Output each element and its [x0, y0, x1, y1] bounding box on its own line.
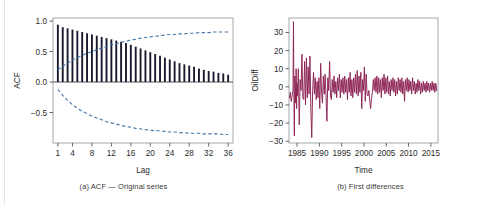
x-tick-label: 2015: [422, 149, 441, 158]
x-axis-title: Time: [355, 166, 373, 175]
panel-b-caption: (b) First differences: [247, 182, 494, 191]
y-tick-label: 0.5: [36, 48, 48, 57]
plot-frame: [53, 18, 233, 143]
x-tick-label: 8: [90, 149, 95, 158]
x-tick-label: 1995: [333, 149, 352, 158]
x-tick-label: 20: [146, 149, 156, 158]
x-tick-label: 2005: [377, 149, 396, 158]
x-tick-label: 4: [70, 149, 75, 158]
y-tick-label: −0.5: [31, 109, 48, 118]
y-tick-label: −30: [269, 137, 283, 146]
x-tick-label: 1985: [288, 149, 307, 158]
y-tick-label: 20: [274, 47, 284, 56]
x-tick-label: 28: [185, 149, 195, 158]
x-tick-label: 16: [126, 149, 136, 158]
y-axis-title: ACF: [13, 72, 22, 88]
x-tick-label: 2000: [355, 149, 374, 158]
y-axis-title: OilDiff: [251, 69, 260, 92]
y-tick-label: 0.0: [36, 78, 48, 87]
y-tick-label: −10: [269, 101, 283, 110]
x-tick-label: 32: [204, 149, 214, 158]
x-tick-label: 1990: [310, 149, 329, 158]
oildiff-timeseries-chart: 3020100−10−20−30198519901995200020052010…: [247, 0, 494, 180]
y-tick-label: 1.0: [36, 17, 48, 26]
figure-acf-and-first-differences: 1.00.50.0−0.514812162024283236LagACF (a)…: [0, 0, 494, 204]
y-tick-label: −20: [269, 119, 283, 128]
x-axis-title: Lag: [136, 166, 150, 175]
y-tick-label: 10: [274, 65, 284, 74]
y-tick-label: 0: [278, 83, 283, 92]
panel-acf-original-series: 1.00.50.0−0.514812162024283236LagACF (a)…: [0, 0, 247, 204]
x-tick-label: 2010: [399, 149, 418, 158]
x-tick-label: 12: [107, 149, 117, 158]
panel-first-differences: 3020100−10−20−30198519901995200020052010…: [247, 0, 494, 204]
x-tick-label: 1: [56, 149, 61, 158]
acf-chart: 1.00.50.0−0.514812162024283236LagACF: [0, 0, 247, 180]
x-tick-label: 24: [165, 149, 175, 158]
panel-a-caption: (a) ACF — Original series: [0, 182, 247, 191]
x-tick-label: 36: [224, 149, 234, 158]
y-tick-label: 30: [274, 28, 284, 37]
